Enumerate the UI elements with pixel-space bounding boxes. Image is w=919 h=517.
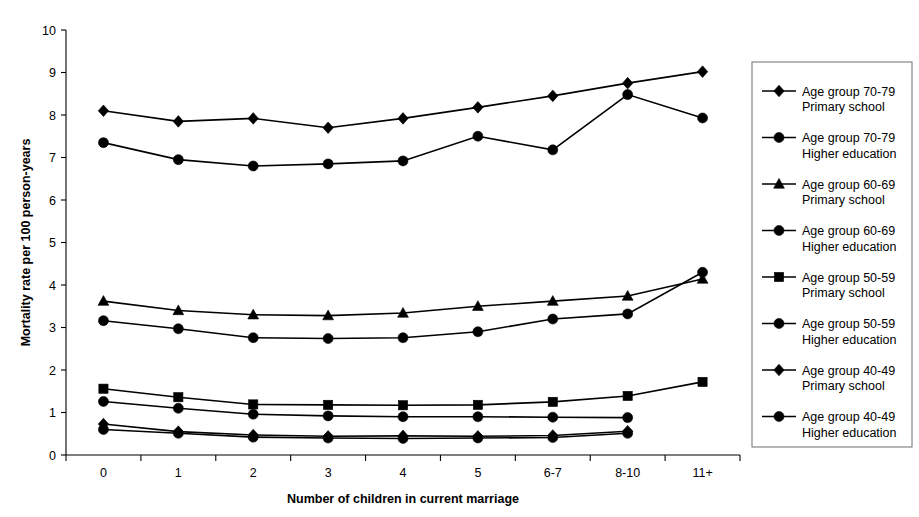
data-point	[248, 333, 258, 343]
chart-legend[interactable]: Age group 70-79Primary schoolAge group 7…	[752, 62, 912, 447]
y-tick-label: 9	[49, 66, 56, 80]
data-point	[248, 409, 258, 419]
data-point	[548, 314, 558, 324]
data-point	[398, 412, 408, 422]
legend-label-line2: Higher education	[802, 333, 897, 347]
data-point	[548, 433, 558, 443]
x-axis-title: Number of children in current marriage	[287, 492, 519, 506]
data-point	[548, 397, 557, 406]
legend-label-line2: Primary school	[802, 193, 885, 207]
data-point	[324, 400, 333, 409]
y-tick-label: 7	[49, 151, 56, 165]
legend-label-line2: Primary school	[802, 100, 885, 114]
chart-figure: 012345678910 0123456-78-1011+ Number of …	[0, 0, 919, 517]
legend-marker-circle-icon	[774, 226, 784, 236]
legend-label-line1: Age group 50-59	[802, 271, 895, 285]
legend-label-line1: Age group 70-79	[802, 85, 895, 99]
data-point	[98, 138, 108, 148]
legend-label-line1: Age group 60-69	[802, 224, 895, 238]
legend-label-line1: Age group 40-49	[802, 364, 895, 378]
y-tick-label: 2	[49, 364, 56, 378]
data-point	[98, 396, 108, 406]
data-point	[473, 433, 483, 443]
y-tick-label: 3	[49, 321, 56, 335]
data-point	[173, 403, 183, 413]
y-tick-label: 5	[49, 236, 56, 250]
y-tick-label: 0	[49, 449, 56, 463]
legend-marker-circle-icon	[774, 319, 784, 329]
legend-label-line1: Age group 60-69	[802, 178, 895, 192]
x-tick-label: 4	[400, 466, 407, 480]
data-point	[548, 145, 558, 155]
data-point	[173, 324, 183, 334]
data-point	[248, 432, 258, 442]
y-axis-title: Mortality rate per 100 person-years	[19, 139, 33, 347]
x-tick-label: 5	[474, 466, 481, 480]
data-point	[98, 425, 108, 435]
data-point	[398, 433, 408, 443]
x-tick-label: 3	[325, 466, 332, 480]
data-point	[398, 333, 408, 343]
x-tick-label: 0	[100, 466, 107, 480]
legend-label-line2: Higher education	[802, 426, 897, 440]
y-tick-label: 6	[49, 194, 56, 208]
data-point	[398, 401, 407, 410]
legend-label-line2: Higher education	[802, 240, 897, 254]
data-point	[173, 155, 183, 165]
legend-label-line2: Higher education	[802, 147, 897, 161]
legend-label-line1: Age group 50-59	[802, 317, 895, 331]
data-point	[398, 156, 408, 166]
legend-label-line1: Age group 40-49	[802, 410, 895, 424]
data-point	[473, 131, 483, 141]
legend-label-line2: Primary school	[802, 286, 885, 300]
x-tick-label: 8-10	[615, 466, 640, 480]
data-point	[98, 316, 108, 326]
data-point	[623, 309, 633, 319]
data-point	[99, 384, 108, 393]
data-point	[249, 400, 258, 409]
data-point	[698, 113, 708, 123]
legend-label-line2: Primary school	[802, 379, 885, 393]
legend-marker-square-icon	[774, 272, 783, 281]
x-tick-label: 1	[175, 466, 182, 480]
data-point	[174, 393, 183, 402]
data-point	[623, 391, 632, 400]
data-point	[323, 159, 333, 169]
data-point	[323, 411, 333, 421]
data-point	[248, 161, 258, 171]
legend-label-line1: Age group 70-79	[802, 131, 895, 145]
data-point	[323, 334, 333, 344]
data-point	[548, 412, 558, 422]
data-point	[473, 327, 483, 337]
y-tick-label: 10	[42, 24, 56, 38]
x-tick-label: 11+	[692, 466, 712, 480]
data-point	[173, 428, 183, 438]
mortality-rate-line-chart: 012345678910 0123456-78-1011+ Number of …	[0, 0, 919, 517]
legend-marker-circle-icon	[774, 412, 784, 422]
x-tick-label: 2	[250, 466, 257, 480]
y-tick-label: 1	[49, 406, 56, 420]
data-point	[623, 90, 633, 100]
data-point	[623, 413, 633, 423]
data-point	[623, 428, 633, 438]
data-point	[473, 412, 483, 422]
data-point	[473, 400, 482, 409]
data-point	[323, 433, 333, 443]
data-point	[698, 267, 708, 277]
y-tick-label: 4	[49, 279, 56, 293]
data-point	[698, 377, 707, 386]
y-tick-label: 8	[49, 109, 56, 123]
x-tick-label: 6-7	[544, 466, 562, 480]
legend-marker-circle-icon	[774, 133, 784, 143]
